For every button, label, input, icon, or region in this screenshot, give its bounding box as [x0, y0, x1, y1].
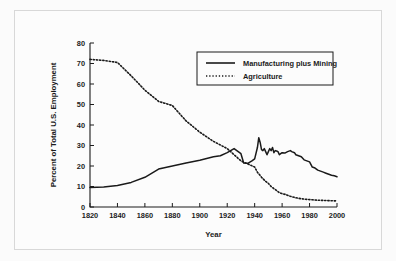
x-tick-label: 1980 [301, 211, 317, 220]
x-tick-label: 1840 [109, 211, 125, 220]
x-tick-label: 1880 [164, 211, 180, 220]
y-tick-label: 80 [77, 39, 85, 48]
y-axis-title: Percent of Total U.S. Employment [49, 62, 58, 187]
legend-label-0: Manufacturing plus Mining [243, 59, 338, 68]
series-line-0 [90, 138, 337, 188]
legend-group: Manufacturing plus MiningAgriculture [197, 52, 338, 85]
chart-plot: 0102030405060708018201840186018801900192… [0, 0, 396, 261]
y-tick-label: 20 [77, 162, 85, 171]
x-axis-title: Year [205, 230, 221, 239]
chart-figure: 0102030405060708018201840186018801900192… [0, 0, 396, 261]
legend-label-1: Agriculture [243, 72, 282, 81]
y-tick-label: 40 [77, 121, 85, 130]
x-tick-label: 1900 [192, 211, 208, 220]
y-tick-label: 30 [77, 141, 85, 150]
y-tick-label: 10 [77, 182, 85, 191]
y-tick-label: 70 [77, 59, 85, 68]
x-tick-label: 2000 [329, 211, 345, 220]
y-tick-label: 50 [77, 100, 85, 109]
x-tick-label: 1940 [246, 211, 262, 220]
x-tick-label: 1820 [82, 211, 98, 220]
x-tick-label: 1920 [219, 211, 235, 220]
y-tick-label: 60 [77, 80, 85, 89]
x-tick-label: 1960 [274, 211, 290, 220]
x-tick-label: 1860 [137, 211, 153, 220]
